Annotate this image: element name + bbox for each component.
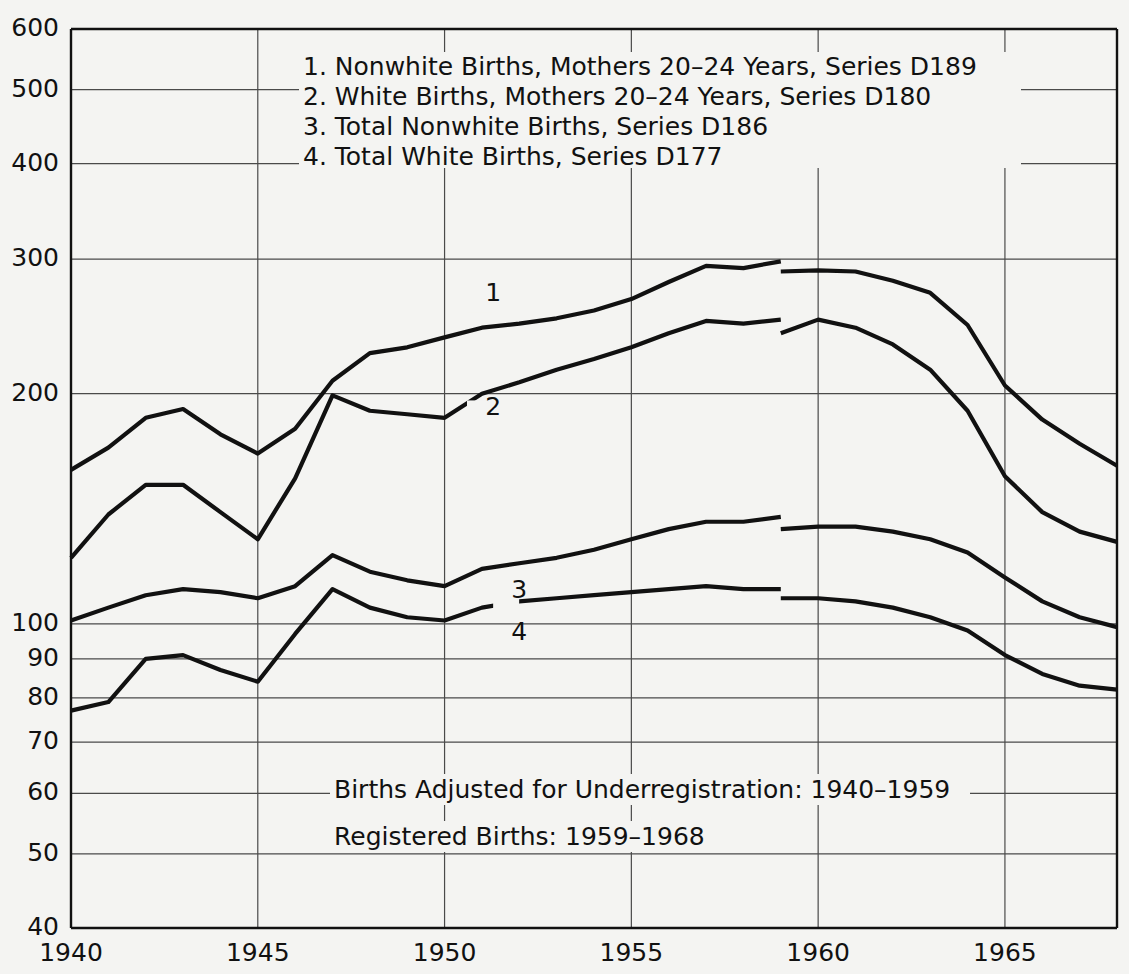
x-tick-label-1940: 1940 — [39, 938, 103, 967]
series-lines — [71, 261, 1117, 710]
legend-item-2: 2. White Births, Mothers 20–24 Years, Se… — [303, 82, 931, 111]
series-2-adjusted-line — [71, 320, 781, 558]
x-tick-label-1960: 1960 — [786, 938, 850, 967]
legend-item-1: 1. Nonwhite Births, Mothers 20–24 Years,… — [303, 52, 977, 81]
series-number-labels: 1234 — [467, 278, 527, 652]
series-label-2: 2 — [485, 392, 501, 421]
x-tick-label-1945: 1945 — [226, 938, 290, 967]
y-tick-label-70: 70 — [27, 726, 59, 755]
series-label-1: 1 — [485, 278, 501, 307]
legend-item-3: 3. Total Nonwhite Births, Series D186 — [303, 112, 768, 141]
chart-notes: Births Adjusted for Underregistration: 1… — [330, 774, 970, 852]
legend-item-4: 4. Total White Births, Series D177 — [303, 142, 723, 171]
x-tick-label-1950: 1950 — [413, 938, 477, 967]
y-tick-label-500: 500 — [11, 74, 59, 103]
y-tick-label-200: 200 — [11, 378, 59, 407]
series-label-4: 4 — [511, 617, 527, 646]
chart-figure: 405060708090100200300400500600 194019451… — [0, 0, 1129, 974]
series-2-registered-line — [781, 320, 1117, 542]
x-axis-tick-labels: 194019451950195519601965 — [39, 938, 1037, 967]
chart-note-2: Registered Births: 1959–1968 — [334, 822, 705, 851]
y-axis-tick-labels: 405060708090100200300400500600 — [11, 13, 59, 941]
x-tick-label-1965: 1965 — [973, 938, 1037, 967]
series-3-adjusted-line — [71, 517, 781, 621]
y-tick-label-300: 300 — [11, 243, 59, 272]
series-label-3: 3 — [511, 575, 527, 604]
y-tick-label-60: 60 — [27, 777, 59, 806]
y-tick-label-40: 40 — [27, 912, 59, 941]
series-3-registered-line — [781, 527, 1117, 627]
series-1-adjusted-line — [71, 261, 781, 470]
y-tick-label-90: 90 — [27, 643, 59, 672]
chart-note-1: Births Adjusted for Underregistration: 1… — [334, 775, 950, 804]
births-log-line-chart: 405060708090100200300400500600 194019451… — [0, 0, 1129, 974]
series-1-registered-line — [781, 270, 1117, 465]
y-tick-label-100: 100 — [11, 608, 59, 637]
legend: 1. Nonwhite Births, Mothers 20–24 Years,… — [299, 52, 1021, 171]
y-tick-label-80: 80 — [27, 682, 59, 711]
x-tick-label-1955: 1955 — [600, 938, 664, 967]
series-4-adjusted-line — [71, 586, 781, 710]
y-tick-label-50: 50 — [27, 838, 59, 867]
y-tick-label-600: 600 — [11, 13, 59, 42]
y-tick-label-400: 400 — [11, 148, 59, 177]
